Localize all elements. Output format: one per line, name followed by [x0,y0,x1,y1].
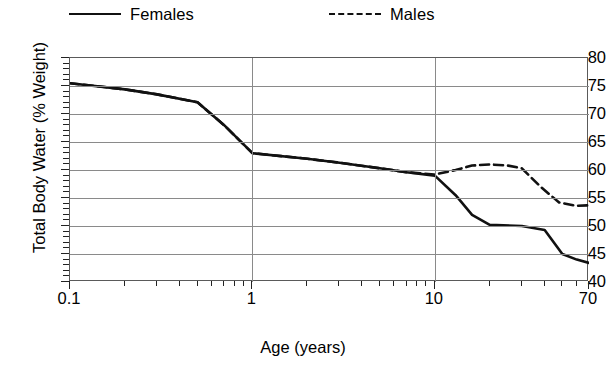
legend-item-females: Females [69,6,194,23]
y-tick-major [61,281,69,282]
y-tick-major [61,85,69,86]
gridline-horizontal [70,254,589,255]
y-tick-major [61,113,69,114]
gridline-horizontal [70,198,589,199]
y-axis-title: Total Body Water (% Weight) [30,23,49,273]
gridline-vertical [252,58,253,282]
gridline-horizontal [70,170,589,171]
y-tick-major [61,169,69,170]
legend-label-males: Males [390,6,435,23]
dashed-line-icon [329,7,381,21]
y-tick-major [61,253,69,254]
legend-label-females: Females [130,6,194,23]
x-tick-major [434,281,435,289]
chart-figure: Females Males Total Body Water (% Weight… [0,0,606,373]
x-tick-label: 70 [579,290,597,307]
y-tick-major [61,225,69,226]
chart-legend: Females Males [0,4,606,34]
y-tick-major [61,57,69,58]
plot-area [69,57,588,281]
y-tick-major [61,141,69,142]
x-tick-label: 1 [247,290,256,307]
gridline-horizontal [70,226,589,227]
gridline-horizontal [70,114,589,115]
x-tick-label: 0.1 [58,290,81,307]
x-axis-title: Age (years) [0,338,606,357]
legend-item-males: Males [329,6,435,23]
series-line-males [70,83,589,206]
solid-line-icon [69,7,121,21]
x-tick-label: 10 [425,290,443,307]
gridline-horizontal [70,86,589,87]
x-tick-major [588,281,589,289]
gridline-vertical [435,58,436,282]
x-tick-major [69,281,70,289]
x-tick-major [251,281,252,289]
series-line-females [70,83,589,263]
y-tick-major [61,197,69,198]
gridline-horizontal [70,142,589,143]
